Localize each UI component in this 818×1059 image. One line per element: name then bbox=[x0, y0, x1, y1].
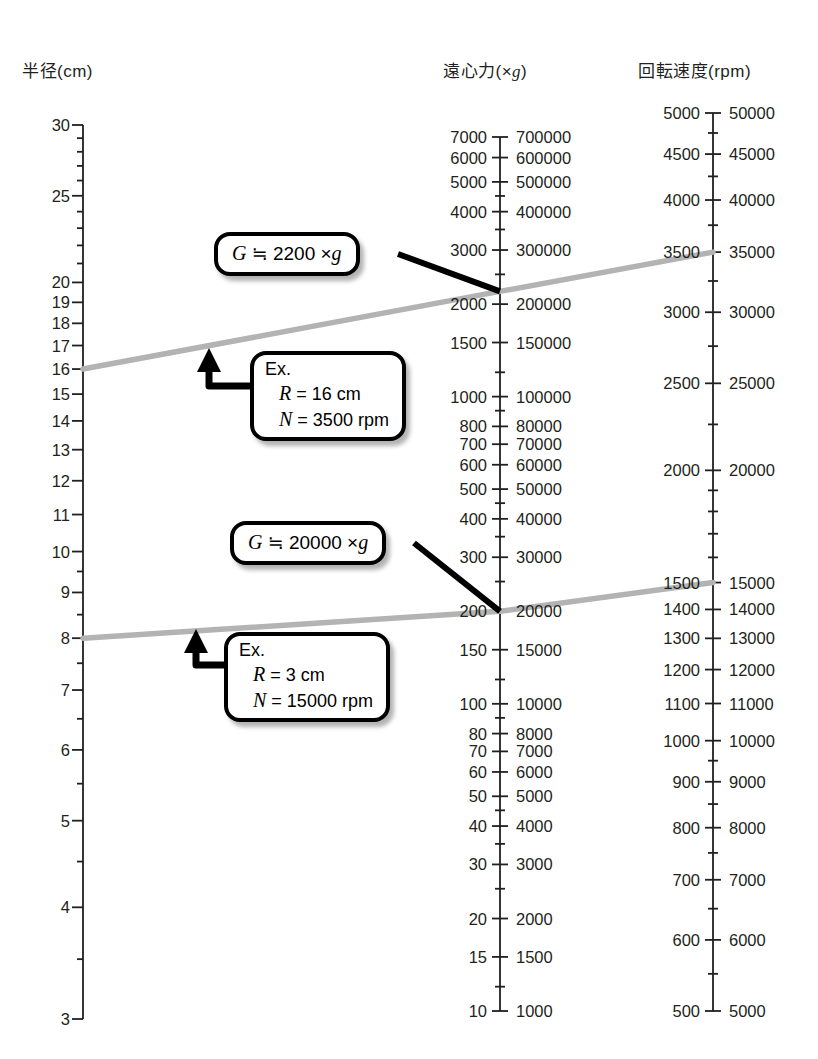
tick-label: 1400 bbox=[663, 601, 700, 618]
callout-rcf-upper[interactable]: G ≒ 2200 ×g bbox=[214, 232, 360, 276]
callout-rcf-upper-unit: g bbox=[332, 242, 342, 264]
tick-label: 1100 bbox=[665, 695, 700, 712]
example-lines bbox=[83, 252, 713, 638]
tick-label: 4500 bbox=[663, 146, 700, 163]
callout-example-upper-n-val: = 3500 rpm bbox=[292, 410, 389, 430]
tick-marks bbox=[72, 113, 721, 1019]
tick-label: 9 bbox=[61, 584, 70, 601]
tick-label: 13 bbox=[52, 441, 70, 458]
tick-label: 6 bbox=[61, 742, 70, 759]
tick-label: 1500 bbox=[663, 574, 700, 591]
tick-label: 10000 bbox=[516, 696, 562, 713]
tick-label: 5000 bbox=[516, 788, 553, 805]
tick-label: 7 bbox=[61, 682, 70, 699]
tick-label: 3000 bbox=[663, 304, 700, 321]
tick-label: 40000 bbox=[729, 192, 775, 209]
tick-label: 6000 bbox=[516, 764, 553, 781]
callout-rcf-lower-var: G bbox=[248, 531, 262, 553]
tick-label: 1000 bbox=[663, 732, 700, 749]
callout-rcf-lower-unit: g bbox=[358, 531, 368, 553]
tick-label: 8000 bbox=[729, 819, 766, 836]
tick-label: 1500 bbox=[516, 949, 553, 966]
tick-label: 13000 bbox=[729, 630, 775, 647]
tick-label: 500 bbox=[672, 1003, 700, 1020]
tick-label: 15 bbox=[52, 386, 70, 403]
tick-label: 6000 bbox=[729, 932, 766, 949]
tick-label: 70 bbox=[469, 743, 487, 760]
callout-example-lower-r-val: = 3 cm bbox=[265, 665, 325, 685]
tick-label: 6000 bbox=[450, 149, 487, 166]
callout-rcf-lower-eq: ≒ 20000 × bbox=[262, 532, 358, 553]
callout-rcf-upper-var: G bbox=[232, 242, 246, 264]
tick-label: 20 bbox=[469, 910, 487, 927]
tick-label: 100000 bbox=[516, 388, 571, 405]
tick-label: 15000 bbox=[729, 574, 775, 591]
tick-label: 500000 bbox=[516, 174, 571, 191]
tick-label: 16 bbox=[52, 361, 70, 378]
nomogram-canvas: 半径(cm) 遠心力(×g) 回転速度(rpm) 302520191817161… bbox=[0, 0, 818, 1059]
tick-label: 600000 bbox=[516, 149, 571, 166]
tick-label: 50000 bbox=[729, 105, 775, 122]
tick-label: 15000 bbox=[516, 641, 562, 658]
tick-label: 4 bbox=[61, 899, 70, 916]
tick-label: 20000 bbox=[729, 462, 775, 479]
tick-label: 3500 bbox=[663, 244, 700, 261]
tick-label: 1000 bbox=[516, 1003, 553, 1020]
tick-label: 4000 bbox=[663, 192, 700, 209]
tick-label: 500 bbox=[459, 481, 487, 498]
tick-label: 3000 bbox=[450, 242, 487, 259]
tick-label: 9000 bbox=[729, 774, 766, 791]
tick-label: 35000 bbox=[729, 244, 775, 261]
tick-label: 4000 bbox=[516, 818, 553, 835]
tick-label: 150 bbox=[459, 641, 487, 658]
callout-leader-lines bbox=[184, 254, 500, 665]
tick-label: 5000 bbox=[729, 1003, 766, 1020]
tick-label: 400000 bbox=[516, 203, 571, 220]
tick-label: 100 bbox=[459, 696, 487, 713]
tick-label: 12 bbox=[52, 473, 70, 490]
tick-label: 5000 bbox=[450, 174, 487, 191]
callout-example-upper-r-val: = 16 cm bbox=[291, 384, 361, 404]
tick-label: 5 bbox=[61, 812, 70, 829]
callout-example-upper[interactable]: Ex. R = 16 cm N = 3500 rpm bbox=[250, 351, 406, 441]
tick-label: 7000 bbox=[729, 872, 766, 889]
tick-label: 2000 bbox=[450, 296, 487, 313]
tick-label: 10 bbox=[52, 543, 70, 560]
callout-example-upper-speed: N = 3500 rpm bbox=[265, 407, 389, 433]
tick-label: 14 bbox=[52, 413, 70, 430]
tick-label: 3000 bbox=[516, 856, 553, 873]
tick-label: 20000 bbox=[516, 603, 562, 620]
callout-example-upper-title: Ex. bbox=[265, 358, 389, 381]
tick-label: 11000 bbox=[729, 695, 774, 712]
tick-label: 14000 bbox=[729, 601, 775, 618]
callout-example-upper-r-var: R bbox=[279, 382, 291, 404]
tick-label: 70000 bbox=[516, 436, 562, 453]
tick-label: 700000 bbox=[516, 129, 571, 146]
callout-rcf-lower[interactable]: G ≒ 20000 ×g bbox=[230, 521, 386, 565]
tick-label: 2000 bbox=[516, 910, 553, 927]
tick-label: 45000 bbox=[729, 146, 775, 163]
tick-label: 1200 bbox=[663, 661, 700, 678]
callout-example-lower[interactable]: Ex. R = 3 cm N = 15000 rpm bbox=[224, 632, 390, 722]
tick-label: 12000 bbox=[729, 661, 775, 678]
callout-example-lower-speed: N = 15000 rpm bbox=[239, 688, 373, 714]
tick-label: 600 bbox=[672, 932, 700, 949]
tick-label: 25000 bbox=[729, 375, 775, 392]
tick-label: 7000 bbox=[450, 129, 487, 146]
tick-label: 25 bbox=[52, 188, 70, 205]
tick-label: 11 bbox=[53, 506, 70, 523]
tick-label: 40000 bbox=[516, 511, 562, 528]
tick-label: 60000 bbox=[516, 457, 562, 474]
axis-lines bbox=[83, 113, 713, 1019]
tick-label: 8 bbox=[61, 630, 70, 647]
tick-label: 50000 bbox=[516, 481, 562, 498]
tick-label: 800 bbox=[459, 418, 487, 435]
tick-label: 900 bbox=[672, 774, 700, 791]
tick-label: 80 bbox=[469, 725, 487, 742]
tick-label: 8000 bbox=[516, 725, 553, 742]
tick-label: 60 bbox=[469, 764, 487, 781]
callout-rcf-upper-eq: ≒ 2200 × bbox=[246, 243, 331, 264]
tick-label: 400 bbox=[459, 511, 487, 528]
tick-label: 7000 bbox=[516, 743, 553, 760]
tick-label: 40 bbox=[469, 818, 487, 835]
